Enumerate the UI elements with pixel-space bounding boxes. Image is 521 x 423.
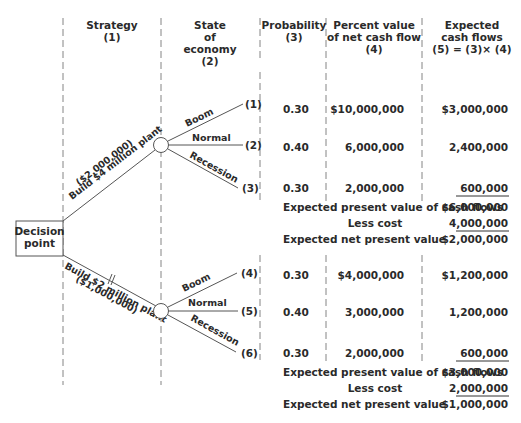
svg-text:Probability: Probability: [262, 19, 327, 31]
summary-2m: Expected present value of cash flows $3,…: [283, 366, 509, 410]
svg-text:6,000,000: 6,000,000: [345, 141, 404, 153]
svg-text:Boom: Boom: [180, 271, 212, 294]
svg-text:600,000: 600,000: [460, 347, 508, 359]
summary-4m: Expected present value of cash flows $6,…: [283, 201, 509, 245]
svg-text:Expected: Expected: [445, 19, 499, 31]
header-percent-value: Percent value of net cash flow (4): [327, 19, 421, 55]
header-state-of-economy: State of economy (2): [183, 19, 236, 67]
strategy-branch-2m: Build $2 million plant ($1,000,000): [63, 255, 169, 325]
svg-text:1,200,000: 1,200,000: [449, 306, 508, 318]
outcome-row: 0.30 2,000,000 600,000: [283, 182, 509, 196]
svg-text:$1,200,000: $1,200,000: [442, 269, 508, 281]
outcome-row: 0.40 3,000,000 1,200,000: [283, 306, 508, 318]
outcome-row: 0.30 $10,000,000 $3,000,000: [283, 103, 508, 115]
outcome-row: 0.30 $4,000,000 $1,200,000: [283, 269, 508, 281]
svg-text:$4,000,000: $4,000,000: [338, 269, 404, 281]
svg-text:Recession: Recession: [188, 149, 240, 185]
svg-text:$3,000,000: $3,000,000: [442, 103, 508, 115]
svg-text:Normal: Normal: [188, 297, 227, 308]
svg-text:0.40: 0.40: [283, 306, 309, 318]
svg-text:0.30: 0.30: [283, 182, 309, 194]
header-strategy: Strategy (1): [86, 19, 138, 43]
svg-text:Expected net present value: Expected net present value: [283, 398, 446, 410]
svg-text:(1): (1): [104, 31, 121, 43]
state-branches-2m: Boom Normal Recession (4) (5) (6): [168, 267, 258, 359]
svg-text:Normal: Normal: [192, 132, 231, 143]
header-expected-cash-flows: Expected cash flows (5) = (3)× (4): [432, 19, 511, 55]
svg-text:(5): (5): [241, 305, 258, 317]
svg-text:(6): (6): [241, 347, 258, 359]
chance-node-4m: [154, 138, 169, 153]
svg-text:of net cash flow: of net cash flow: [327, 31, 421, 43]
outcome-row: 0.40 6,000,000 2,400,000: [283, 141, 508, 153]
svg-text:State: State: [194, 19, 226, 31]
svg-text:(4): (4): [241, 267, 258, 279]
svg-text:2,000,000: 2,000,000: [345, 347, 404, 359]
svg-text:2,000,000: 2,000,000: [449, 382, 508, 394]
decision-point-node: Decision point: [14, 221, 64, 256]
chance-node-2m: [154, 304, 169, 319]
svg-text:of: of: [204, 31, 216, 43]
svg-text:Build $4 million plant: Build $4 million plant: [67, 123, 165, 202]
svg-text:0.30: 0.30: [283, 269, 309, 281]
svg-text:0.40: 0.40: [283, 141, 309, 153]
svg-text:Expected net present value: Expected net present value: [283, 233, 446, 245]
svg-text:(4): (4): [366, 43, 383, 55]
outcome-row: 0.30 2,000,000 600,000: [283, 347, 509, 361]
svg-text:$6,000,000: $6,000,000: [442, 201, 508, 213]
svg-text:2,000,000: 2,000,000: [345, 182, 404, 194]
svg-text:(3): (3): [242, 182, 259, 194]
svg-text:point: point: [24, 237, 55, 249]
svg-text:600,000: 600,000: [460, 182, 508, 194]
svg-text:Percent value: Percent value: [333, 19, 415, 31]
svg-text:$10,000,000: $10,000,000: [330, 103, 404, 115]
svg-text:$1,000,000: $1,000,000: [442, 398, 508, 410]
svg-text:Less cost: Less cost: [348, 382, 403, 394]
svg-text:$2,000,000: $2,000,000: [442, 233, 508, 245]
svg-text:(2): (2): [202, 55, 219, 67]
svg-text:(3): (3): [286, 31, 303, 43]
svg-text:$3,000,000: $3,000,000: [442, 366, 508, 378]
svg-text:(1): (1): [245, 98, 262, 110]
svg-text:Recession: Recession: [189, 312, 241, 348]
svg-text:($2,000,000): ($2,000,000): [74, 137, 135, 188]
svg-text:cash flows: cash flows: [441, 31, 503, 43]
state-branches-4m: Boom Normal Recession (1) (2) (3): [168, 98, 262, 194]
svg-text:(5) = (3)× (4): (5) = (3)× (4): [432, 43, 511, 55]
svg-text:4,000,000: 4,000,000: [449, 217, 508, 229]
svg-text:0.30: 0.30: [283, 103, 309, 115]
decision-tree-diagram: Strategy (1) State of economy (2) Probab…: [0, 0, 521, 423]
svg-text:3,000,000: 3,000,000: [345, 306, 404, 318]
svg-text:Decision: Decision: [14, 225, 64, 237]
strategy-branch-4m: Build $4 million plant ($2,000,000): [63, 123, 164, 221]
svg-text:Less cost: Less cost: [348, 217, 403, 229]
header-probability: Probability (3): [262, 19, 327, 43]
svg-text:2,400,000: 2,400,000: [449, 141, 508, 153]
svg-text:Strategy: Strategy: [86, 19, 138, 31]
svg-text:(2): (2): [245, 139, 262, 151]
svg-text:economy: economy: [183, 43, 236, 55]
svg-text:0.30: 0.30: [283, 347, 309, 359]
